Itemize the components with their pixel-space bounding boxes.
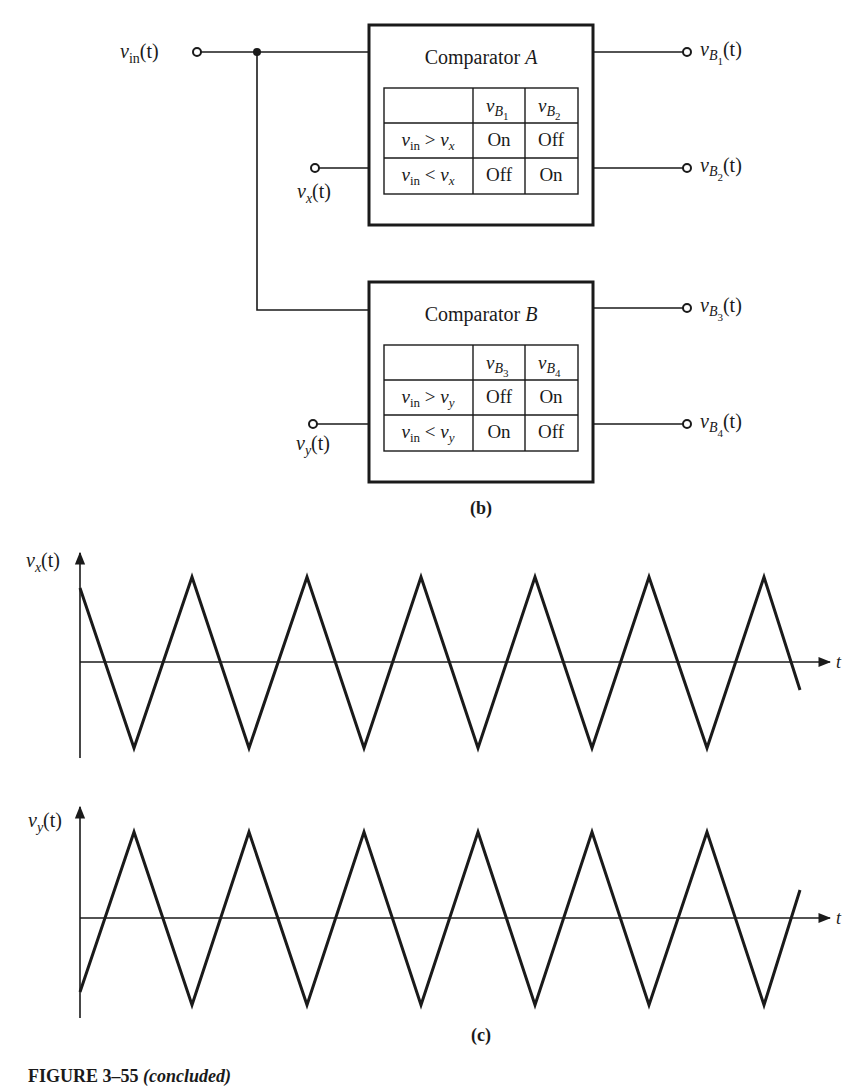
figure-caption: FIGURE 3–55 (concluded) xyxy=(28,1066,231,1087)
cell-value: On xyxy=(539,386,563,407)
comparator-b: Comparator B vB3 vB4 vin > vy Off On vin… xyxy=(296,282,742,482)
vx-axis-label: vx(t) xyxy=(26,549,60,575)
vin-label: vin(t) xyxy=(120,40,159,66)
cell-value: Off xyxy=(538,129,565,150)
part-b-label: (b) xyxy=(470,498,492,519)
vb3-output: vB3(t) xyxy=(593,294,742,323)
vy-axis-label: vy(t) xyxy=(28,809,62,835)
col-header-vb2: vB2 xyxy=(538,95,561,122)
vy-label: vy(t) xyxy=(296,432,330,458)
vy-t-label: t xyxy=(836,908,842,928)
row-condition: vin < vx xyxy=(402,164,455,188)
comparator-b-truth-table: vB3 vB4 vin > vy Off On vin < vy On Off xyxy=(384,345,578,451)
vb2-label: vB2(t) xyxy=(700,154,742,183)
vb1-terminal-icon xyxy=(683,48,691,56)
vb4-terminal-icon xyxy=(683,420,691,428)
vx-terminal-icon xyxy=(311,164,319,172)
row-condition: vin < vy xyxy=(402,421,455,445)
vb2-terminal-icon xyxy=(683,164,691,172)
cell-value: On xyxy=(487,129,511,150)
vb4-output: vB4(t) xyxy=(593,410,742,439)
comparator-a-truth-table: vB1 vB2 vin > vx On Off vin < vx Off On xyxy=(384,88,578,194)
comparator-block-diagram: vin(t) Comparator A vB1 vB2 vin > vx On xyxy=(120,25,742,519)
vb4-label: vB4(t) xyxy=(700,410,742,439)
caption-bold: FIGURE 3–55 xyxy=(28,1066,143,1086)
vb3-terminal-icon xyxy=(683,304,691,312)
col-header-vb1: vB1 xyxy=(486,95,509,122)
vin-input: vin(t) xyxy=(120,40,369,310)
cell-value: On xyxy=(487,421,511,442)
vb1-output: vB1(t) xyxy=(593,38,742,67)
col-header-vb3: vB3 xyxy=(486,352,509,379)
vx-waveform-plot: vx(t) t xyxy=(26,549,842,758)
cell-value: Off xyxy=(486,386,513,407)
vy-terminal-icon xyxy=(309,420,317,428)
caption-italic: (concluded) xyxy=(143,1066,231,1086)
vb2-output: vB2(t) xyxy=(593,154,742,183)
vb1-label: vB1(t) xyxy=(700,38,742,67)
vin-terminal-icon xyxy=(193,48,201,56)
part-c-label: (c) xyxy=(471,1025,491,1046)
cell-value: Off xyxy=(538,421,565,442)
comparator-a: Comparator A vB1 vB2 vin > vx On Off vin… xyxy=(297,25,742,225)
row-condition: vin > vy xyxy=(402,386,455,410)
vy-waveform-plot: vy(t) t xyxy=(28,807,842,1018)
vy-input: vy(t) xyxy=(296,420,369,458)
comparator-a-title: Comparator A xyxy=(425,46,539,69)
col-header-vb4: vB4 xyxy=(538,352,561,379)
cell-value: On xyxy=(539,164,563,185)
vx-t-label: t xyxy=(836,652,842,672)
cell-value: Off xyxy=(486,164,513,185)
row-condition: vin > vx xyxy=(402,129,455,153)
comparator-b-title: Comparator B xyxy=(425,303,538,326)
vb3-label: vB3(t) xyxy=(700,294,742,323)
vx-label: vx(t) xyxy=(297,180,331,206)
vx-input: vx(t) xyxy=(297,164,369,206)
